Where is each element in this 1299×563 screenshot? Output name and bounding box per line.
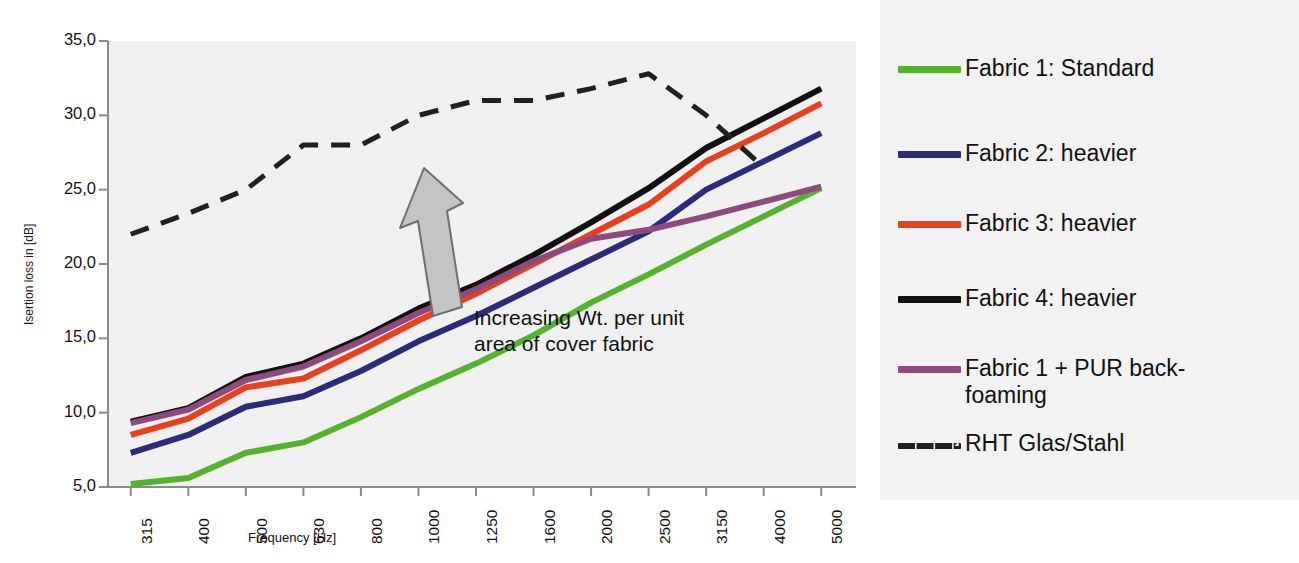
legend-swatch-icon xyxy=(898,443,961,449)
legend-swatch-icon xyxy=(898,151,961,158)
legend-item-1[interactable]: Fabric 1: Standard xyxy=(898,55,1154,82)
legend-item-4[interactable]: Fabric 4: heavier xyxy=(898,285,1136,312)
legend-swatch-icon xyxy=(898,221,961,228)
legend-item-label: RHT Glas/Stahl xyxy=(965,430,1124,457)
x-tick-label: 3150 xyxy=(713,510,731,544)
x-tick-label: 4000 xyxy=(771,510,789,544)
x-tick-label: 2500 xyxy=(656,510,674,544)
legend-item-2[interactable]: Fabric 2: heavier xyxy=(898,140,1136,167)
legend-item-label: Fabric 2: heavier xyxy=(965,140,1136,167)
legend-item-label: Fabric 3: heavier xyxy=(965,210,1136,237)
legend-item-6[interactable]: RHT Glas/Stahl xyxy=(898,430,1124,457)
insertion-loss-chart: 5,010,015,020,025,030,035,0 315400500630… xyxy=(0,0,1299,563)
y-tick-label: 5,0 xyxy=(30,476,96,495)
legend-item-label: Fabric 4: heavier xyxy=(965,285,1136,312)
up-left-arrow-icon xyxy=(400,168,463,316)
data-series-lines xyxy=(131,74,821,484)
y-axis-title: Isertion loss in [dB] xyxy=(22,224,36,325)
y-tick-label: 30,0 xyxy=(30,104,96,123)
legend-item-label: Fabric 1: Standard xyxy=(965,55,1154,82)
x-tick-label: 800 xyxy=(368,518,386,544)
x-tick-label: 1000 xyxy=(425,510,443,544)
y-tick-marks xyxy=(99,41,108,487)
x-tick-label: 2000 xyxy=(598,510,616,544)
y-tick-label: 10,0 xyxy=(30,402,96,421)
x-tick-label: 400 xyxy=(195,518,213,544)
series-line-4 xyxy=(131,89,821,422)
increasing-weight-annotation: Increasing Wt. per unit area of cover fa… xyxy=(474,305,684,356)
x-axis-title: Frequency [Hz] xyxy=(248,530,336,545)
legend-item-3[interactable]: Fabric 3: heavier xyxy=(898,210,1136,237)
x-tick-label: 5000 xyxy=(828,510,846,544)
x-tick-label: 315 xyxy=(138,518,156,544)
x-tick-label: 1600 xyxy=(541,510,559,544)
y-tick-label: 35,0 xyxy=(30,30,96,49)
y-tick-label: 15,0 xyxy=(30,327,96,346)
x-tick-label: 1250 xyxy=(483,510,501,544)
legend-item-5[interactable]: Fabric 1 + PUR back- foaming xyxy=(898,355,1186,408)
chart-canvas xyxy=(0,0,1299,563)
legend-item-label: Fabric 1 + PUR back- foaming xyxy=(965,355,1186,408)
legend-swatch-icon xyxy=(898,296,961,303)
y-tick-label: 20,0 xyxy=(30,253,96,272)
legend-swatch-icon xyxy=(898,366,961,373)
legend-swatch-icon xyxy=(898,66,961,73)
x-tick-marks xyxy=(131,487,821,496)
y-tick-label: 25,0 xyxy=(30,179,96,198)
